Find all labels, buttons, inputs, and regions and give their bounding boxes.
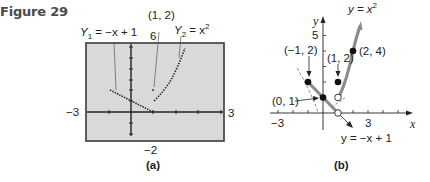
ymax-label-a: 6 [150, 30, 156, 42]
tick-label-5: 5 [312, 29, 318, 41]
arrowhead-neg1-2 [307, 71, 312, 77]
calculator-screen [86, 43, 224, 141]
figure-canvas: Y1 = −x + 1 Y2 = x2 (1, 2) 6 −3 3 −2 (a) [0, 0, 430, 182]
ymin-label-a: −2 [144, 144, 157, 156]
y-ticks-b [323, 36, 326, 98]
arrowhead-1-2 [336, 71, 341, 77]
parabola-label: y = x2 [347, 1, 378, 15]
open-point-1-1 [335, 94, 342, 101]
label-2-4: (2, 4) [359, 45, 386, 57]
label-1-2: (1, 2) [327, 52, 354, 64]
xmin-label-a: −3 [66, 106, 79, 118]
arrowhead-0-1 [313, 96, 319, 101]
label-y1: Y1 = −x + 1 [80, 26, 137, 41]
y-axis-label: y [312, 14, 319, 28]
point-0-1 [320, 94, 327, 101]
x-axis-arrow [406, 111, 413, 116]
tick-label-neg3: −3 [271, 117, 284, 129]
y-axis-arrow [321, 16, 326, 23]
parabola-arrowhead [357, 21, 363, 30]
line-label: y = −x + 1 [341, 132, 392, 144]
tick-label-3: 3 [365, 117, 371, 129]
label-0-1: (0, 1) [272, 95, 299, 107]
label-neg1-2: (−1, 2) [284, 44, 318, 56]
x-axis-label: x [409, 117, 416, 131]
label-y2: Y2 = x2 [174, 22, 210, 39]
open-point-1-0 [335, 110, 342, 117]
panel-a: Y1 = −x + 1 Y2 = x2 (1, 2) 6 −3 3 −2 (a) [66, 9, 234, 171]
caption-a: (a) [146, 159, 160, 171]
point-neg1-2 [305, 79, 312, 86]
point-1-2-b [335, 79, 342, 86]
panel-b: y x 5 −3 3 y = x2 y = −x + 1 (−1, 2) (1,… [270, 1, 416, 171]
caption-b: (b) [334, 159, 349, 171]
label-point-a: (1, 2) [148, 9, 175, 21]
xmax-label-a: 3 [228, 107, 234, 119]
point-1-2-a [152, 89, 154, 91]
